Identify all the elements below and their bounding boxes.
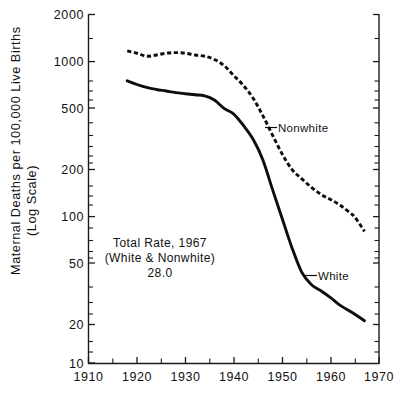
x-tick-label: 1910 xyxy=(73,370,103,384)
y-tick-label: 200 xyxy=(61,163,84,177)
note-line-1: Total Rate, 1967 xyxy=(113,236,207,250)
nonwhite-line xyxy=(127,51,364,231)
y-tick-label: 2000 xyxy=(54,8,84,22)
y-tick-label: 10 xyxy=(69,357,84,371)
nonwhite-callout: Nonwhite xyxy=(265,122,328,134)
y-axis-title-line2: (Log Scale) xyxy=(24,165,39,236)
maternal-mortality-chart: 2000 1000 500 200 100 50 20 10 1910 1920… xyxy=(0,0,405,401)
x-tick-label: 1950 xyxy=(267,370,297,384)
plot-axes xyxy=(88,14,380,364)
x-tick-label: 1920 xyxy=(122,370,152,384)
white-line xyxy=(127,81,364,321)
y-tick-label: 1000 xyxy=(54,55,84,69)
right-axis-ticks xyxy=(373,15,379,353)
x-tick-label: 1970 xyxy=(364,370,394,384)
series-nonwhite xyxy=(127,51,364,231)
x-axis-ticks xyxy=(89,357,380,364)
y-axis-title: Maternal Deaths per 100,000 Live Births … xyxy=(8,26,39,275)
white-label: White xyxy=(318,270,349,282)
y-tick-label: 500 xyxy=(61,102,84,116)
total-rate-note: Total Rate, 1967 (White & Nonwhite) 28.0 xyxy=(105,236,216,280)
x-tick-label: 1940 xyxy=(219,370,249,384)
x-tick-labels: 1910 1920 1930 1940 1950 1960 1970 xyxy=(73,370,394,384)
y-tick-label: 100 xyxy=(61,210,84,224)
note-line-2: (White & Nonwhite) xyxy=(105,251,216,265)
chart-canvas: 2000 1000 500 200 100 50 20 10 1910 1920… xyxy=(0,0,405,401)
x-tick-label: 1930 xyxy=(170,370,200,384)
white-callout: White xyxy=(305,270,349,282)
note-line-3: 28.0 xyxy=(148,266,173,280)
y-tick-labels: 2000 1000 500 200 100 50 20 10 xyxy=(54,8,84,371)
nonwhite-label: Nonwhite xyxy=(278,122,328,134)
series-white xyxy=(127,81,364,321)
y-axis-major-ticks xyxy=(89,15,96,364)
y-tick-label: 20 xyxy=(69,318,84,332)
y-tick-label: 50 xyxy=(69,257,84,271)
x-tick-label: 1960 xyxy=(316,370,346,384)
y-axis-title-line1: Maternal Deaths per 100,000 Live Births xyxy=(8,26,23,275)
